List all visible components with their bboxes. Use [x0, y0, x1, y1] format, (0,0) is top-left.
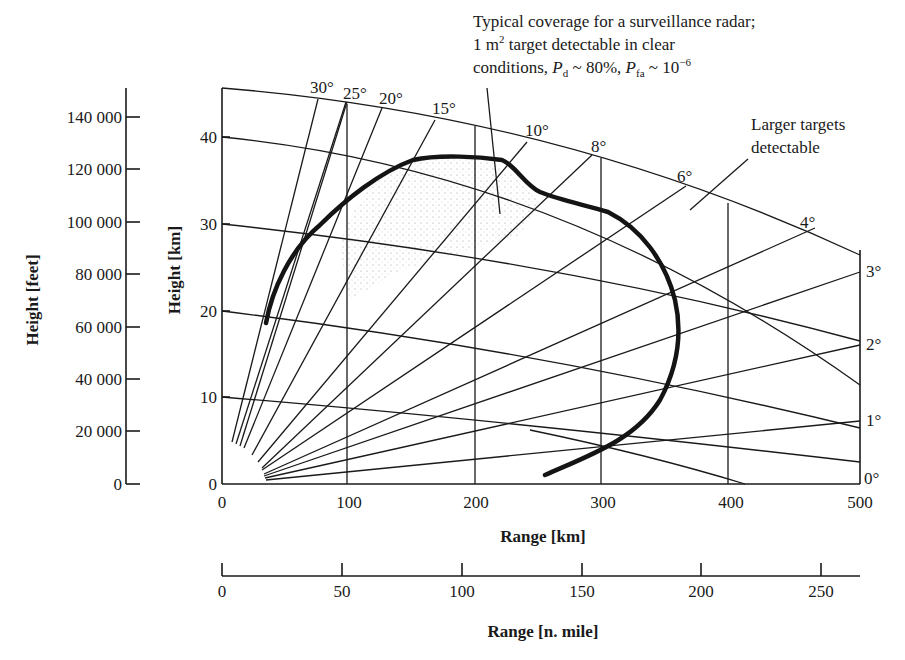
km-y-axis: 0 10 20 30 40 Height [km]: [165, 88, 230, 494]
ft-tick-80000: 80 000: [75, 265, 122, 284]
angle-8: 8°: [591, 137, 606, 156]
larger-line-2: detectable: [751, 138, 820, 157]
x-axis-nmile-title: Range [n. mile]: [488, 622, 599, 641]
nm-tick-0: 0: [218, 582, 227, 601]
nm-tick-200: 200: [688, 582, 714, 601]
nm-tick-50: 50: [334, 582, 351, 601]
y-axis-km-title: Height [km]: [165, 226, 184, 314]
km-x-tick-0: 0: [218, 493, 227, 512]
annotation-line-1: Typical coverage for a surveillance rada…: [473, 12, 755, 31]
angle-0: 0°: [864, 469, 879, 488]
nm-tick-150: 150: [569, 582, 595, 601]
nm-tick-100: 100: [449, 582, 475, 601]
km-y-tick-0: 0: [209, 475, 218, 494]
ft-tick-100000: 100 000: [67, 213, 122, 232]
km-y-tick-30: 30: [200, 215, 217, 234]
radar-coverage-chart: 0 20 000 40 000 60 000 80 000 100 000 12…: [0, 0, 905, 660]
km-x-tick-200: 200: [463, 493, 489, 512]
larger-line-1: Larger targets: [751, 115, 845, 134]
ft-tick-0: 0: [114, 475, 123, 494]
larger-targets-annotation: Larger targets detectable: [751, 115, 845, 157]
annotation-line-2: 1 m2 target detectable in clear: [473, 33, 675, 54]
angle-4: 4°: [800, 213, 815, 232]
km-x-tick-400: 400: [718, 493, 744, 512]
km-y-tick-10: 10: [200, 388, 217, 407]
nm-tick-250: 250: [808, 582, 834, 601]
ft-tick-20000: 20 000: [75, 422, 122, 441]
coverage-shaded-area: [340, 158, 540, 300]
angle-30: 30°: [310, 78, 334, 97]
ft-tick-140000: 140 000: [67, 108, 122, 127]
ft-tick-120000: 120 000: [67, 160, 122, 179]
km-x-tick-300: 300: [590, 493, 616, 512]
ft-tick-60000: 60 000: [75, 318, 122, 337]
angle-6: 6°: [677, 167, 692, 186]
x-axis-km-title: Range [km]: [500, 527, 585, 546]
angle-2: 2°: [866, 335, 881, 354]
ft-tick-40000: 40 000: [75, 370, 122, 389]
km-x-tick-100: 100: [336, 493, 362, 512]
feet-axis: 0 20 000 40 000 60 000 80 000 100 000 12…: [23, 88, 140, 494]
coverage-annotation: Typical coverage for a surveillance rada…: [473, 12, 755, 79]
annotation-line-3: conditions, Pd ~ 80%, Pfa ~ 10−6: [473, 56, 691, 79]
km-x-tick-500: 500: [847, 493, 873, 512]
angle-3: 3°: [866, 262, 881, 281]
angle-15: 15°: [432, 99, 456, 118]
angle-1: 1°: [866, 411, 881, 430]
km-x-axis: 0 100 200 300 400 500 Range [km]: [218, 250, 873, 546]
larger-pointer: [690, 159, 748, 210]
km-y-tick-40: 40: [200, 128, 217, 147]
km-y-tick-20: 20: [200, 302, 217, 321]
angle-10: 10°: [525, 121, 549, 140]
angle-20: 20°: [379, 89, 403, 108]
y-axis-feet-title: Height [feet]: [23, 254, 42, 345]
angle-25: 25°: [343, 84, 367, 103]
nmile-axis: 0 50 100 150 200 250 Range [n. mile]: [218, 563, 860, 641]
